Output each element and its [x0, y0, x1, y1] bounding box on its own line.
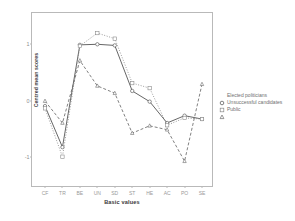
data-point	[148, 86, 151, 89]
data-point	[165, 124, 168, 127]
x-tick-label-he: HE	[146, 190, 153, 196]
data-point	[148, 100, 151, 103]
data-point	[43, 107, 46, 110]
data-point	[61, 155, 64, 158]
chart-lines	[32, 13, 214, 188]
y-tick-label: -1	[25, 154, 30, 160]
x-tick-label-sd: SD	[111, 190, 118, 196]
square-marker-icon	[219, 99, 225, 105]
x-tick-label-tr: TR	[59, 190, 66, 196]
data-point	[78, 44, 81, 47]
data-point	[113, 37, 116, 40]
legend-label: Elected politicians	[227, 92, 267, 98]
series-elected-politicians	[43, 43, 203, 149]
x-tick-label-un: UN	[94, 190, 101, 196]
legend-item: Public	[219, 106, 293, 112]
legend-label: Unsuccessful candidates	[227, 99, 282, 105]
x-tick-label-st: ST	[129, 190, 135, 196]
x-tick-label-po: PO	[181, 190, 188, 196]
circle-marker-icon	[219, 92, 225, 98]
data-point	[200, 82, 203, 85]
triangle-marker-icon	[219, 106, 225, 112]
x-tick-label-ac: AC	[164, 190, 171, 196]
data-point	[131, 89, 134, 92]
x-tick-label-be: BE	[77, 190, 84, 196]
chart-figure: Centred mean scores 10-1 CFTRBEUNSDSTHEA…	[0, 0, 295, 221]
data-point	[43, 99, 46, 102]
data-point	[113, 44, 116, 47]
series-unsuccessful-candidates	[43, 31, 203, 158]
x-axis-title: Basic values	[31, 199, 213, 205]
legend-item: Unsuccessful candidates	[219, 99, 293, 105]
x-tick-label-cf: CF	[42, 190, 49, 196]
data-point	[78, 59, 81, 62]
data-point	[200, 117, 203, 120]
data-point	[96, 43, 99, 46]
chart-legend: Elected politiciansUnsuccessful candidat…	[219, 92, 293, 113]
series-public	[43, 59, 203, 163]
data-point	[96, 31, 99, 34]
x-tick-label-se: SE	[199, 190, 206, 196]
data-point	[183, 116, 186, 119]
series-line	[45, 33, 202, 157]
legend-item: Elected politicians	[219, 92, 293, 98]
data-point	[148, 124, 151, 127]
plot-area: Centred mean scores 10-1 CFTRBEUNSDSTHEA…	[31, 12, 213, 187]
data-point	[131, 81, 134, 84]
legend-label: Public	[227, 106, 241, 112]
